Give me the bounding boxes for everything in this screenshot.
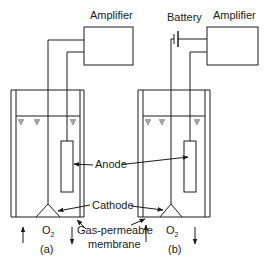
- wire-cathode-a: [48, 40, 84, 204]
- cathode-leader-a: [58, 205, 90, 211]
- panel-a: [11, 27, 133, 244]
- o2-label-a: O2: [42, 224, 55, 238]
- water-level-icon-b: [145, 120, 200, 124]
- anode-leader-a: [74, 164, 93, 165]
- anode-a: [61, 141, 73, 192]
- cathode-leader-b: [131, 206, 163, 210]
- membrane-label-line2: membrane: [88, 238, 141, 250]
- wire-anode-b: [190, 52, 207, 141]
- amplifier-box-b: [207, 27, 258, 65]
- amplifier-label-a: Amplifier: [90, 9, 133, 21]
- cathode-a: [36, 204, 60, 217]
- amplifier-box-a: [84, 27, 133, 65]
- anode-b: [184, 141, 196, 192]
- o2-label-b: O2: [166, 224, 179, 238]
- wire-anode-a: [67, 52, 84, 141]
- caption-a: (a): [40, 243, 53, 255]
- battery-label: Battery: [167, 11, 202, 23]
- membrane-label-line1: Gas-permeable: [77, 224, 153, 236]
- battery-icon: [174, 31, 178, 47]
- anode-leader-b: [126, 157, 188, 164]
- cathode-label: Cathode: [92, 199, 134, 211]
- amplifier-label-b: Amplifier: [213, 9, 256, 21]
- wire-cathode-b: [171, 39, 174, 204]
- caption-b: (b): [168, 243, 181, 255]
- sensor-diagram: Amplifier Battery Amplifier Anode Cathod…: [0, 0, 267, 264]
- cathode-b: [160, 204, 182, 217]
- panel-b: [126, 27, 258, 244]
- container-outer-b: [138, 90, 210, 217]
